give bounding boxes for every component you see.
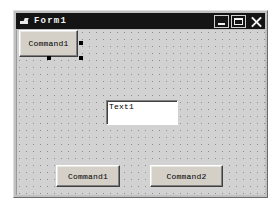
vb-form-window: Form1 _ □ × Command1	[13, 10, 268, 198]
minimize-button[interactable]: _	[214, 15, 229, 28]
command-button-command1-top[interactable]: Command1	[19, 30, 78, 57]
window-controls: _ □ ×	[214, 15, 263, 28]
form-title: Form1	[34, 16, 67, 26]
maximize-button[interactable]: □	[231, 15, 246, 28]
resize-handle-middle-right[interactable]	[79, 41, 83, 45]
textbox-value: Text1	[109, 102, 134, 111]
command-button-caption: Command1	[68, 172, 108, 181]
resize-handle-bottom-right[interactable]	[79, 56, 83, 60]
command-button-caption: Command2	[166, 172, 206, 181]
close-button[interactable]: ×	[248, 15, 263, 28]
resize-handle-bottom-center[interactable]	[47, 56, 51, 60]
screenshot-root: Form1 _ □ × Command1	[0, 0, 278, 213]
command-button-caption: Command1	[28, 39, 68, 48]
textbox-text1[interactable]: Text1	[106, 100, 178, 125]
command-button-command1-bottom[interactable]: Command1	[56, 165, 120, 187]
form-design-surface[interactable]: Command1 Text1 Command1 Command2	[16, 30, 265, 195]
form-icon	[19, 16, 30, 27]
maximize-icon	[234, 18, 243, 25]
form-title-bar[interactable]: Form1 _ □ ×	[16, 13, 265, 29]
command-button-command2[interactable]: Command2	[150, 165, 223, 187]
minimize-icon	[218, 23, 225, 25]
